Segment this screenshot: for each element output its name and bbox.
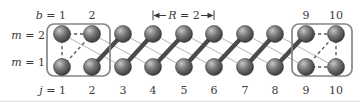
site-node — [298, 59, 315, 76]
site-node — [206, 59, 223, 76]
site-node — [328, 59, 345, 76]
bottom-col-label: 8 — [272, 84, 279, 97]
right-arrowhead-icon — [208, 13, 214, 19]
site-node — [54, 26, 71, 43]
site-node — [84, 59, 101, 76]
site-node — [84, 26, 101, 43]
row-label-m2: m = 2 — [11, 29, 45, 42]
bottom-col-label: 7 — [242, 84, 249, 97]
site-node — [267, 59, 284, 76]
site-node — [237, 26, 254, 43]
j-axis-label: j = 1 — [36, 84, 66, 97]
site-node — [267, 26, 284, 43]
site-node — [206, 26, 223, 43]
site-node — [115, 26, 132, 43]
left-arrowhead-icon — [154, 13, 160, 19]
bottom-col-label: 5 — [181, 84, 188, 97]
site-node — [237, 59, 254, 76]
figure-bottom-edge — [0, 100, 360, 102]
bottom-col-label: 2 — [89, 84, 96, 97]
bottom-col-label: 9 — [303, 84, 310, 97]
bottom-col-label: 6 — [211, 84, 218, 97]
site-node — [145, 59, 162, 76]
site-node — [145, 26, 162, 43]
figure-labels: b = 1 2 9 10 R = 2 m = 2 m = 1 j = 1 2 3… — [11, 9, 343, 97]
top-col-label: 2 — [89, 9, 96, 22]
lattice-figure: b = 1 2 9 10 R = 2 m = 2 m = 1 j = 1 2 3… — [0, 0, 360, 102]
b-axis-label: b = 1 — [36, 9, 66, 22]
bottom-col-label: 3 — [120, 84, 127, 97]
top-col-label: 10 — [329, 9, 343, 22]
bottom-col-label: 4 — [150, 84, 157, 97]
site-node — [298, 26, 315, 43]
top-col-label: 9 — [303, 9, 310, 22]
site-node — [328, 26, 345, 43]
bottom-col-label: 10 — [329, 84, 343, 97]
site-node — [54, 59, 71, 76]
row-label-m1: m = 1 — [11, 56, 45, 69]
site-node — [176, 26, 193, 43]
site-node — [176, 59, 193, 76]
site-node — [115, 59, 132, 76]
figure-canvas: b = 1 2 9 10 R = 2 m = 2 m = 1 j = 1 2 3… — [0, 0, 360, 102]
range-annotation: R = 2 — [167, 9, 200, 22]
